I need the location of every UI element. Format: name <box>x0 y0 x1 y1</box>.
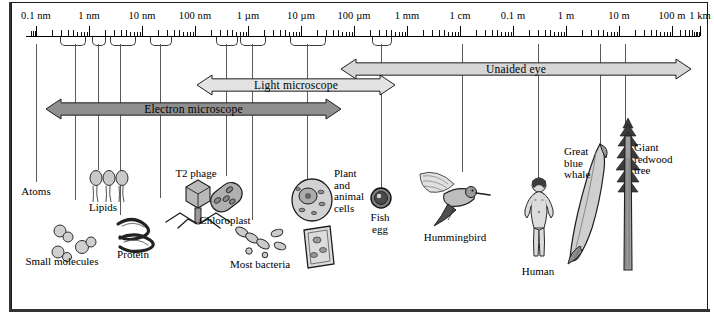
ruler-tick-minor <box>31 31 32 36</box>
ruler-tick-minor <box>52 30 53 36</box>
range-bracket <box>92 37 106 46</box>
ruler-tick-minor <box>402 32 403 36</box>
ruler-tick-minor <box>246 32 247 36</box>
ruler-tick-minor <box>77 32 78 36</box>
scale-label: 1 µm <box>237 10 260 21</box>
caption-giant-redwood-tree: Giant redwood tree <box>634 142 673 177</box>
plant-cell-art <box>296 224 340 270</box>
scale-label: 0.1 m <box>501 10 525 21</box>
dropline-small-molecules <box>75 44 76 200</box>
ruler-tick-minor <box>492 30 493 36</box>
ruler-tick-minor <box>386 30 387 36</box>
ruler-tick-major <box>672 26 673 36</box>
frame-left-edge <box>9 2 12 312</box>
range-bracket <box>60 37 86 46</box>
ruler-tick-minor <box>338 30 339 36</box>
ruler-tick-minor <box>550 30 551 36</box>
ruler-tick-minor <box>296 32 297 36</box>
range-bracket <box>216 37 238 46</box>
range-arrow-electron-microscope: Electron microscope <box>45 98 342 120</box>
ruler-tick-minor <box>667 32 668 36</box>
caption-hummingbird: Hummingbird <box>424 232 486 244</box>
caption-atoms: Atoms <box>21 186 50 198</box>
ruler-tick-major <box>407 26 408 36</box>
ruler-tick-minor <box>591 30 592 36</box>
ruler-tick-minor <box>179 30 180 36</box>
ruler-tick-minor <box>211 30 212 36</box>
ruler-tick-minor <box>289 32 290 36</box>
ruler-tick-major <box>513 26 514 36</box>
ruler-tick-minor <box>187 32 188 36</box>
human-art <box>522 176 556 260</box>
ruler-tick-minor <box>656 30 657 36</box>
ruler-tick-minor <box>558 32 559 36</box>
scale-label: 1 mm <box>395 10 420 21</box>
ruler-tick-major <box>195 26 196 36</box>
ruler-tick-major <box>301 26 302 36</box>
ruler-tick-minor <box>121 30 122 36</box>
ruler-tick-minor <box>561 32 562 36</box>
ruler-tick-minor <box>87 32 88 36</box>
range-bracket <box>150 37 172 46</box>
ruler-tick-minor <box>405 32 406 36</box>
ruler-tick-minor <box>529 30 530 36</box>
ruler-tick-minor <box>140 32 141 36</box>
ruler-tick-minor <box>183 32 184 36</box>
ruler-tick-minor <box>452 32 453 36</box>
ruler-tick-minor <box>699 32 700 36</box>
ruler-tick-minor <box>611 32 612 36</box>
ruler-tick-minor <box>220 30 221 36</box>
ruler-tick-minor <box>137 32 138 36</box>
ruler-tick-minor <box>399 32 400 36</box>
dropline-t2-phage <box>160 44 161 198</box>
fish-egg-art <box>369 186 393 210</box>
frame-bottom-edge <box>11 309 710 312</box>
dropline-most-bacteria <box>252 44 253 220</box>
ruler-tick-minor <box>370 30 371 36</box>
caption-plant-animal-cells: Plant and animal cells <box>334 168 364 214</box>
ruler-tick-minor <box>280 30 281 36</box>
ruler-tick-minor <box>448 32 449 36</box>
ruler-tick-minor <box>432 30 433 36</box>
range-bracket <box>110 37 136 46</box>
range-arrow-label: Light microscope <box>196 79 396 91</box>
ruler-tick-minor <box>476 30 477 36</box>
ruler-tick-minor <box>105 30 106 36</box>
ruler-tick-minor <box>349 32 350 36</box>
caption-protein: Protein <box>117 249 149 261</box>
caption-t2-phage: T2 phage <box>175 168 216 180</box>
range-bracket <box>240 37 266 46</box>
ruler-tick-minor <box>293 32 294 36</box>
ruler-tick-minor <box>497 30 498 36</box>
ruler-tick-minor <box>391 30 392 36</box>
ruler-tick-minor <box>598 30 599 36</box>
ruler-tick-minor <box>232 30 233 36</box>
ruler-tick-minor <box>317 30 318 36</box>
ruler-tick-major <box>566 26 567 36</box>
ruler-tick-minor <box>35 31 36 36</box>
ruler-tick-major <box>354 26 355 36</box>
plant-animal-cells-art <box>288 176 336 224</box>
range-arrow-light-microscope: Light microscope <box>196 74 396 96</box>
ruler-tick-major <box>248 26 249 36</box>
ruler-tick-minor <box>273 30 274 36</box>
ruler-tick-major <box>619 26 620 36</box>
ruler-tick-minor <box>326 30 327 36</box>
ruler-tick-minor <box>243 32 244 36</box>
ruler-tick-minor <box>240 32 241 36</box>
ruler-tick-minor <box>439 30 440 36</box>
scale-label: 1 m <box>558 10 574 21</box>
ruler-tick-minor <box>538 30 539 36</box>
hummingbird-art <box>414 168 492 230</box>
ruler-tick-minor <box>651 30 652 36</box>
ruler-tick-minor <box>174 30 175 36</box>
ruler-tick-minor <box>603 30 604 36</box>
caption-human: Human <box>522 266 554 278</box>
most-bacteria-art <box>232 224 292 258</box>
scale-label: 1 cm <box>449 10 470 21</box>
ruler-tick-minor <box>664 32 665 36</box>
ruler-tick-major <box>36 26 37 36</box>
ruler-tick-minor <box>685 30 686 36</box>
ruler-tick-minor <box>73 30 74 36</box>
ruler-tick-minor <box>130 32 131 36</box>
